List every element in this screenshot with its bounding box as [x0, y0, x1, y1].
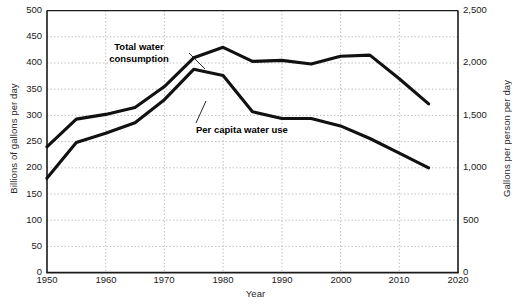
xtick-2010: 2010 [379, 274, 419, 285]
xtick-1990: 1990 [262, 274, 302, 285]
x-axis-title: Year [0, 288, 511, 299]
y-axis-right-title: Gallons per person per day [501, 39, 512, 239]
horizontal-gridlines [47, 37, 458, 247]
total-water-consumption-label-line1: Total water [114, 41, 163, 52]
xtick-1980: 1980 [203, 274, 243, 285]
xtick-2020: 2020 [438, 274, 478, 285]
xtick-1950: 1950 [27, 274, 67, 285]
xtick-1970: 1970 [144, 274, 184, 285]
xtick-2000: 2000 [321, 274, 361, 285]
ytick-right-2500: 2,500 [463, 4, 509, 15]
total-water-consumption-label: Total water consumption [88, 41, 190, 65]
ytick-left-500: 500 [2, 4, 42, 15]
y-axis-left-title: Billions of gallons per day [8, 39, 19, 239]
total-water-consumption-label-line2: consumption [109, 53, 169, 64]
per-capita-water-use-label: Per capita water use [196, 124, 288, 136]
ytick-left-50: 50 [2, 240, 42, 251]
xtick-1960: 1960 [86, 274, 126, 285]
